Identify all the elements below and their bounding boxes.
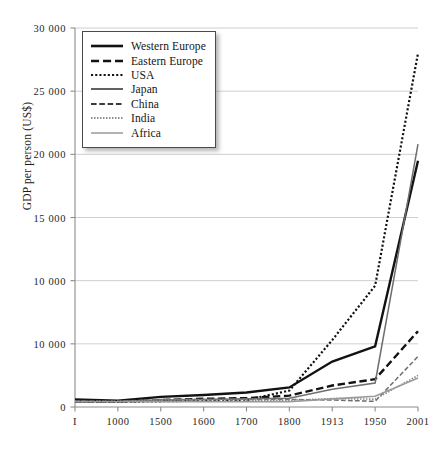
chart-plot-area <box>0 0 444 450</box>
legend-item: Western Europe <box>90 39 206 53</box>
legend-item-label: China <box>131 97 159 111</box>
y-tick-label: 10 000 <box>0 275 66 286</box>
y-tick-label: 25 000 <box>0 86 66 97</box>
legend-item: Eastern Europe <box>90 53 206 67</box>
legend-line-icon <box>90 69 124 81</box>
y-tick-label: 15 000 <box>0 212 66 223</box>
legend-line-icon <box>90 83 124 95</box>
y-tick-label: 0 <box>0 402 66 413</box>
x-tick-label: 1700 <box>235 416 258 427</box>
series-line-eastern-europe <box>75 331 418 401</box>
legend-item-label: India <box>131 111 155 125</box>
legend-item-label: Eastern Europe <box>131 54 203 68</box>
x-tick-label: I <box>73 416 77 427</box>
legend-line-icon <box>90 55 124 67</box>
series-line-china <box>75 356 418 401</box>
legend-line-icon <box>90 40 124 52</box>
legend-item-label: Western Europe <box>131 39 206 53</box>
y-tick-label: 10 000 <box>0 338 66 349</box>
legend-item: Africa <box>90 125 206 139</box>
x-tick-label: 1950 <box>364 416 387 427</box>
legend-item-label: Japan <box>131 82 158 96</box>
x-tick-label: 1600 <box>192 416 215 427</box>
x-tick-label: 2001 <box>407 416 430 427</box>
series-line-japan <box>75 144 418 402</box>
gdp-per-person-chart: GDP per person (US$) 30 00025 00020 0001… <box>0 0 444 450</box>
legend-line-icon <box>90 112 124 124</box>
legend-item: USA <box>90 68 206 82</box>
y-tick-label: 30 000 <box>0 23 66 34</box>
legend-line-icon <box>90 127 124 139</box>
legend-item: India <box>90 111 206 125</box>
x-tick-label: 1800 <box>278 416 301 427</box>
x-tick-label: 1500 <box>149 416 172 427</box>
x-tick-label: 1000 <box>106 416 129 427</box>
y-tick-label: 20 000 <box>0 149 66 160</box>
legend-item-label: Africa <box>131 126 161 140</box>
legend-item: Japan <box>90 82 206 96</box>
legend-item: China <box>90 97 206 111</box>
legend-item-label: USA <box>131 68 154 82</box>
legend-line-icon <box>90 98 124 110</box>
chart-legend: Western EuropeEastern EuropeUSAJapanChin… <box>82 31 216 148</box>
x-tick-label: 1913 <box>321 416 344 427</box>
